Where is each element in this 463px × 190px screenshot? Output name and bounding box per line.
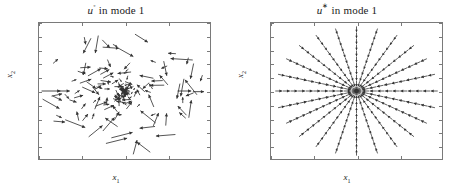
x-tick-mark: [169, 156, 170, 159]
x-tick-mark: [314, 156, 315, 159]
y-tick-mark: [39, 92, 42, 93]
y-tick-mark: [439, 64, 442, 65]
x-tick-mark: [82, 23, 83, 26]
y-tick-mark: [271, 133, 274, 134]
y-tick-mark: [207, 92, 210, 93]
y-tick-mark: [39, 106, 42, 107]
panel-u-star: u∗ in mode 1 10.80.60.40.20-0.2-0.4-0.6-…: [231, 0, 463, 190]
x-tick-mark: [126, 156, 127, 159]
x-tick-mark: [358, 156, 359, 159]
x-tick-mark: [82, 156, 83, 159]
x-tick-mark: [271, 156, 272, 159]
plot-area-left: 10.80.60.40.20-0.2-0.4-0.6-0.8-1-1-0.500…: [38, 22, 211, 160]
y-tick-mark: [271, 147, 274, 148]
y-tick-mark: [207, 147, 210, 148]
title-superscript-right: ∗: [322, 2, 328, 10]
title-rest-left: in mode 1: [96, 4, 145, 16]
y-tick-mark: [271, 92, 274, 93]
x-tick-mark: [401, 156, 402, 159]
y-tick-mark: [39, 51, 42, 52]
y-tick-mark: [39, 147, 42, 148]
y-tick-mark: [207, 106, 210, 107]
y-tick-mark: [207, 78, 210, 79]
y-tick-mark: [271, 106, 274, 107]
x-tick-mark: [169, 23, 170, 26]
panel-title-right: u∗ in mode 1: [231, 4, 463, 16]
y-tick-mark: [207, 37, 210, 38]
panel-u-circle: u◦ in mode 1 10.80.60.40.20-0.2-0.4-0.6-…: [0, 0, 232, 190]
y-tick-mark: [39, 78, 42, 79]
title-rest-right: in mode 1: [329, 4, 378, 16]
quiver-arrows-right: [271, 23, 442, 159]
x-axis-label-left: x1: [0, 172, 232, 184]
y-tick-mark: [207, 23, 210, 24]
x-tick-mark: [358, 23, 359, 26]
x-tick-mark: [39, 23, 40, 26]
y-tick-mark: [439, 147, 442, 148]
y-tick-mark: [439, 92, 442, 93]
y-axis-label-left: x2: [4, 71, 16, 78]
y-tick-mark: [271, 37, 274, 38]
y-tick-mark: [39, 37, 42, 38]
y-tick-mark: [439, 106, 442, 107]
y-tick-mark: [207, 120, 210, 121]
y-axis-label-right: x2: [235, 71, 247, 78]
y-tick-mark: [439, 133, 442, 134]
y-tick-mark: [439, 78, 442, 79]
y-tick-mark: [271, 120, 274, 121]
x-axis-label-right: x1: [231, 172, 463, 184]
y-tick-mark: [39, 133, 42, 134]
plot-area-right: 10.80.60.40.20-0.2-0.4-0.6-0.8-1-1-0.500…: [270, 22, 443, 160]
y-tick-mark: [439, 51, 442, 52]
y-tick-mark: [39, 64, 42, 65]
x-tick-mark: [39, 156, 40, 159]
y-tick-mark: [439, 37, 442, 38]
y-tick-mark: [439, 23, 442, 24]
x-tick-mark: [314, 23, 315, 26]
x-tick-mark: [401, 23, 402, 26]
y-tick-mark: [39, 120, 42, 121]
y-tick-mark: [439, 120, 442, 121]
y-tick-mark: [271, 64, 274, 65]
y-tick-mark: [271, 51, 274, 52]
y-tick-mark: [207, 51, 210, 52]
x-tick-mark: [271, 23, 272, 26]
y-tick-mark: [207, 133, 210, 134]
figure-vector-field-modes: u◦ in mode 1 10.80.60.40.20-0.2-0.4-0.6-…: [0, 0, 463, 190]
title-superscript-left: ◦: [93, 2, 96, 10]
y-tick-mark: [271, 78, 274, 79]
quiver-arrows-left: [39, 23, 210, 159]
x-tick-mark: [126, 23, 127, 26]
y-tick-mark: [207, 64, 210, 65]
panel-title-left: u◦ in mode 1: [0, 4, 232, 16]
